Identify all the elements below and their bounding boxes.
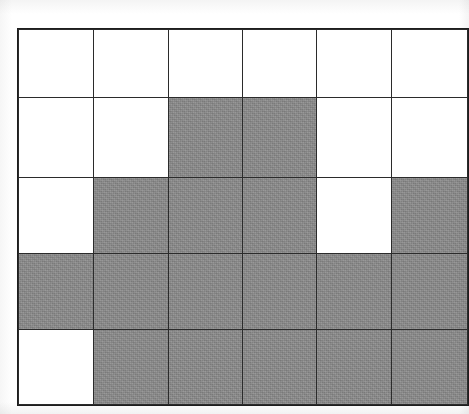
figure-canvas: [0, 0, 469, 414]
shaded-grid-table: [18, 29, 468, 405]
grid-cell[interactable]: [94, 98, 169, 178]
grid-cell[interactable]: [243, 98, 317, 178]
grid-row: [19, 178, 468, 254]
grid-cell[interactable]: [169, 330, 243, 405]
grid-cell[interactable]: [169, 30, 243, 98]
grid-body: [19, 30, 468, 405]
grid-cell[interactable]: [317, 330, 392, 405]
grid-row: [19, 254, 468, 330]
grid-cell[interactable]: [243, 330, 317, 405]
grid-cell[interactable]: [392, 30, 468, 98]
grid-cell[interactable]: [243, 30, 317, 98]
grid-cell[interactable]: [392, 178, 468, 254]
grid-cell[interactable]: [94, 254, 169, 330]
grid-cell[interactable]: [392, 98, 468, 178]
grid-cell[interactable]: [94, 30, 169, 98]
grid-cell[interactable]: [392, 330, 468, 405]
grid-cell[interactable]: [317, 30, 392, 98]
grid-cell[interactable]: [19, 30, 94, 98]
grid-cell[interactable]: [94, 178, 169, 254]
grid-cell[interactable]: [19, 330, 94, 405]
grid-cell[interactable]: [317, 254, 392, 330]
grid-cell[interactable]: [317, 178, 392, 254]
grid-cell[interactable]: [169, 98, 243, 178]
grid-cell[interactable]: [19, 254, 94, 330]
grid-cell[interactable]: [243, 254, 317, 330]
grid-cell[interactable]: [392, 254, 468, 330]
grid-cell[interactable]: [169, 178, 243, 254]
grid-row: [19, 30, 468, 98]
grid-row: [19, 330, 468, 405]
grid-cell[interactable]: [19, 98, 94, 178]
grid-cell[interactable]: [94, 330, 169, 405]
grid-cell[interactable]: [19, 178, 94, 254]
grid-cell[interactable]: [317, 98, 392, 178]
grid-cell[interactable]: [169, 254, 243, 330]
grid-cell[interactable]: [243, 178, 317, 254]
grid-container: [18, 29, 462, 404]
grid-row: [19, 98, 468, 178]
